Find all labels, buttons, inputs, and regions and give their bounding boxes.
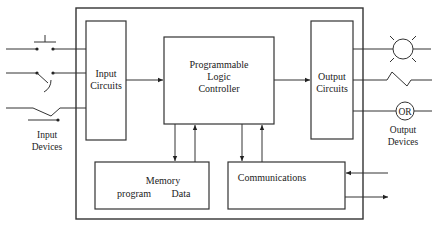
input-circuits-label-2: Circuits [90,80,122,91]
plc-label-2: Logic [207,71,231,82]
output-circuits-label-1: Output [318,71,346,82]
input-devices-label-1: Input [37,130,57,140]
or-symbol-label: OR [398,107,412,117]
communications-block: Communications [228,162,345,209]
output-circuits-block: Output Circuits [311,21,353,139]
output-circuits-label-2: Circuits [316,83,348,94]
plc-label-3: Controller [198,83,240,94]
memory-program-label: program [117,188,151,199]
memory-label: Memory [146,175,180,186]
plc-label-1: Programmable [190,59,249,70]
toggle-switch-icon [6,71,86,92]
limit-switch-icon [6,108,86,122]
plc-block: Programmable Logic Controller [164,37,274,124]
memory-block: Memory program Data [95,162,209,209]
plc-block-diagram: Input Circuits Programmable Logic Contro… [0,0,439,227]
output-devices-label-2: Devices [388,137,419,147]
communications-label: Communications [238,172,306,183]
lamp-icon [353,36,431,62]
input-circuits-block: Input Circuits [86,21,126,140]
pushbutton-switch-icon [6,35,86,51]
memory-data-label: Data [172,188,191,199]
output-relay-icon: OR [353,102,432,120]
heater-icon [353,72,432,86]
input-circuits-label-1: Input [95,68,116,79]
input-devices-label-2: Devices [32,142,63,152]
output-devices-label-1: Output [390,125,417,135]
